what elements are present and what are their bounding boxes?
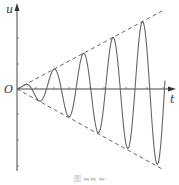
t-axis-arrow-icon xyxy=(168,87,176,92)
u-axis-label: u xyxy=(6,4,13,15)
resonance-diagram xyxy=(0,0,179,185)
caption-text: 图 xyxy=(74,175,83,183)
origin-label: O xyxy=(4,84,13,95)
figure-caption: 图 ▬▬ ▬ xyxy=(0,173,179,183)
oscillation-curve xyxy=(17,22,165,165)
t-axis-label: t xyxy=(170,94,174,105)
u-axis-arrow-icon xyxy=(15,3,20,11)
